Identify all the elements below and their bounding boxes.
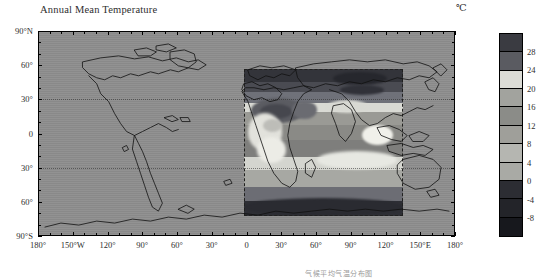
x-axis-tick <box>328 233 329 236</box>
map-plot-area[interactable] <box>38 31 455 236</box>
y-axis-label: 90°S <box>0 231 33 241</box>
y-axis-tick <box>38 168 42 169</box>
colorbar-swatch <box>500 89 522 107</box>
x-axis-tick <box>108 232 109 236</box>
colorbar-tick-label: 20 <box>527 84 536 94</box>
y-axis-tick <box>38 111 41 112</box>
colorbar-tick-label: -4 <box>527 195 534 205</box>
x-axis-tick <box>420 31 421 35</box>
colorbar-swatch <box>500 126 522 144</box>
y-axis-tick <box>452 42 455 43</box>
x-axis-tick <box>108 31 109 35</box>
y-axis-tick <box>452 190 455 191</box>
x-axis-tick <box>61 233 62 236</box>
x-axis-tick <box>374 233 375 236</box>
colorbar-tick-label: 12 <box>527 121 536 131</box>
x-axis-tick <box>351 232 352 236</box>
x-axis-tick <box>374 31 375 34</box>
y-axis-tick <box>452 111 455 112</box>
y-axis-label: 30° <box>0 163 33 173</box>
colorbar-tick-label: 8 <box>527 139 531 149</box>
y-axis-tick <box>452 145 455 146</box>
y-axis-tick <box>452 179 455 180</box>
x-axis-tick <box>432 31 433 34</box>
y-axis-tick <box>452 77 455 78</box>
x-axis-tick <box>316 232 317 236</box>
x-axis-tick <box>142 232 143 236</box>
x-axis-label: 30° <box>275 240 287 250</box>
x-axis-tick <box>455 31 456 35</box>
x-axis-label: 90° <box>136 240 148 250</box>
x-axis-tick <box>235 31 236 34</box>
y-axis-tick <box>38 190 41 191</box>
x-axis-tick <box>386 232 387 236</box>
y-axis-label: 90°N <box>0 26 33 36</box>
colorbar-swatch <box>500 199 522 217</box>
x-axis-tick <box>420 232 421 236</box>
x-axis-label: 30° <box>206 240 218 250</box>
x-axis-tick <box>281 232 282 236</box>
x-axis-tick <box>443 233 444 236</box>
colorbar-swatch <box>500 144 522 162</box>
x-axis-tick <box>293 233 294 236</box>
y-axis-label: 0 <box>0 129 33 139</box>
x-axis-tick <box>61 31 62 34</box>
x-axis-tick <box>386 31 387 35</box>
y-axis-tick <box>38 65 42 66</box>
x-axis-tick <box>362 31 363 34</box>
colorbar-swatch <box>500 163 522 181</box>
x-axis-tick <box>328 31 329 34</box>
y-axis-tick <box>38 202 42 203</box>
y-axis-tick <box>38 179 41 180</box>
x-axis-tick <box>119 233 120 236</box>
y-axis-tick <box>452 54 455 55</box>
x-axis-tick <box>409 31 410 34</box>
figure-root: Annual Mean Temperature ℃ <box>0 0 555 278</box>
y-axis-tick <box>38 42 41 43</box>
x-axis-tick <box>258 233 259 236</box>
y-axis-tick <box>451 168 455 169</box>
colorbar-tick-label: 16 <box>527 102 536 112</box>
colorbar-swatch <box>500 107 522 125</box>
x-axis-tick <box>397 233 398 236</box>
coastline-overlay <box>39 32 454 236</box>
y-axis-tick <box>451 65 455 66</box>
y-axis-tick <box>38 225 41 226</box>
x-axis-tick <box>281 31 282 35</box>
y-axis-label: 60° <box>0 60 33 70</box>
x-axis-tick <box>84 233 85 236</box>
y-axis-label: 30° <box>0 94 33 104</box>
y-axis-tick <box>452 88 455 89</box>
x-axis-tick <box>455 232 456 236</box>
x-axis-tick <box>223 233 224 236</box>
x-axis-tick <box>270 31 271 34</box>
y-axis-tick <box>452 225 455 226</box>
y-axis-tick <box>38 213 41 214</box>
unit-label: ℃ <box>456 2 467 13</box>
x-axis-label: 90° <box>345 240 357 250</box>
figure-caption: 气候平均气温分布图 <box>305 268 555 278</box>
x-axis-tick <box>270 233 271 236</box>
y-axis-tick <box>451 99 455 100</box>
x-axis-tick <box>247 232 248 236</box>
x-axis-tick <box>189 31 190 34</box>
colorbar-swatch <box>500 71 522 89</box>
y-axis-tick <box>38 156 41 157</box>
x-axis-tick <box>131 233 132 236</box>
x-axis-tick <box>362 233 363 236</box>
x-axis-label: 180° <box>30 240 46 250</box>
y-axis-tick <box>38 99 42 100</box>
colorbar-swatch <box>500 52 522 70</box>
x-axis-tick <box>73 232 74 236</box>
x-axis-tick <box>351 31 352 35</box>
colorbar-swatch <box>500 34 522 52</box>
x-axis-label: 150°E <box>410 240 431 250</box>
colorbar[interactable] <box>499 33 523 237</box>
y-axis-tick <box>38 88 41 89</box>
x-axis-tick <box>397 31 398 34</box>
x-axis-tick <box>432 233 433 236</box>
colorbar-swatch <box>500 181 522 199</box>
y-axis-tick <box>452 156 455 157</box>
x-axis-label: 0 <box>244 240 248 250</box>
x-axis-tick <box>177 232 178 236</box>
